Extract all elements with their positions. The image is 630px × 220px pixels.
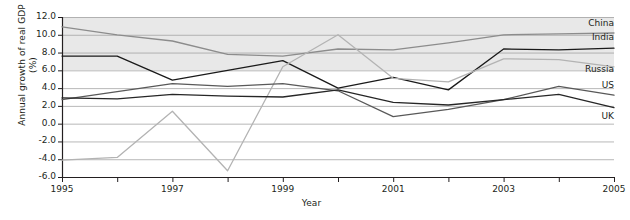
y-axis-tick-label: 6.0 [14,64,56,74]
plot-band-shaded [62,17,614,70]
plot-band-plain [62,70,614,177]
series-label-india: India [592,32,614,42]
series-label-us: US [602,80,614,90]
series-label-uk: UK [602,111,615,121]
y-axis-tick-label: 0.0 [14,118,56,128]
y-axis-tick-label: 12.0 [14,11,56,21]
y-axis-tick-label: -4.0 [14,153,56,163]
x-axis-tick-label: 1995 [37,184,87,194]
x-axis-tick-label: 2005 [589,184,630,194]
x-axis-tick-label: 2001 [368,184,418,194]
x-axis-title: Year [0,198,623,208]
y-axis-tick-label: 2.0 [14,100,56,110]
series-label-russia: Russia [585,64,614,74]
y-axis-tick-label: 4.0 [14,82,56,92]
y-axis-tick-label: 8.0 [14,47,56,57]
x-axis-tick-label: 1997 [147,184,197,194]
y-axis-tick-label: -6.0 [14,171,56,181]
y-axis-tick-label: 10.0 [14,29,56,39]
y-axis-tick-label: -2.0 [14,135,56,145]
series-label-china: China [588,18,614,28]
x-axis-tick-label: 2003 [479,184,529,194]
x-axis-tick-label: 1999 [258,184,308,194]
